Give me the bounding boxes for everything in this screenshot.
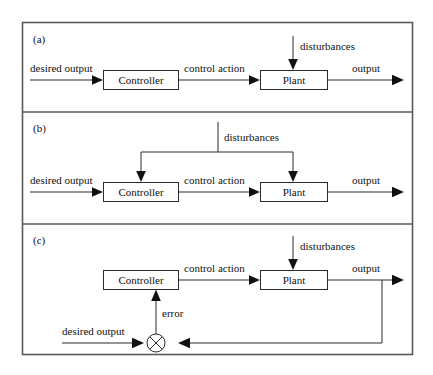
panel-c-label-desired-output: desired output: [62, 325, 125, 337]
panel-b-block-controller-label: Controller: [118, 186, 164, 198]
panel-b-arrow-disturbances-plant: [288, 171, 298, 182]
panel-b-arrow-disturbances-controller: [136, 171, 146, 182]
panel-c-label-control-action: control action: [184, 262, 245, 274]
panel-a-block-plant-label: Plant: [283, 74, 306, 86]
panel-c-arrow-output: [392, 275, 404, 285]
panel-c-block-controller-label: Controller: [118, 274, 164, 286]
panel-b-label-disturbances: disturbances: [224, 131, 279, 143]
panel-b: (b) desired output Controller control ac…: [30, 122, 404, 202]
panel-b-arrow-control-action: [249, 187, 260, 197]
panel-b-arrow-output: [392, 187, 404, 197]
panel-c-arrow-desired-output: [132, 338, 144, 348]
panel-a-arrow-desired-output: [92, 75, 103, 85]
panel-c-arrow-disturbances: [288, 259, 298, 270]
panel-c: (c) Controller control action disturbanc…: [33, 234, 404, 352]
panel-c-summing-junction: [147, 334, 165, 352]
panel-a-label-disturbances: disturbances: [300, 40, 355, 52]
panel-c-label-output: output: [352, 262, 380, 274]
panel-c-label-disturbances: disturbances: [300, 240, 355, 252]
panel-c-block-plant-label: Plant: [283, 274, 306, 286]
panel-b-label-output: output: [352, 174, 380, 186]
panel-b-label-desired-output: desired output: [30, 174, 93, 186]
panel-a: (a) desired output Controller control ac…: [30, 33, 404, 90]
panel-a-label-control-action: control action: [184, 62, 245, 74]
figure-canvas: (a) desired output Controller control ac…: [0, 0, 433, 375]
panel-a-tag: (a): [33, 33, 46, 46]
panel-a-block-controller-label: Controller: [118, 74, 164, 86]
panel-c-arrow-feedback: [178, 338, 190, 348]
panel-b-tag: (b): [33, 122, 46, 135]
panel-b-label-control-action: control action: [184, 174, 245, 186]
panel-a-arrow-output: [392, 75, 404, 85]
panel-a-label-desired-output: desired output: [30, 62, 93, 74]
panel-c-arrow-error: [151, 290, 161, 302]
panel-c-arrow-control-action: [249, 275, 260, 285]
panel-a-arrow-disturbances: [288, 59, 298, 70]
control-diagram-figure: (a) desired output Controller control ac…: [0, 0, 433, 375]
panel-a-label-output: output: [352, 62, 380, 74]
panel-a-arrow-control-action: [249, 75, 260, 85]
panel-c-label-error: error: [162, 307, 184, 319]
panel-b-block-plant-label: Plant: [283, 186, 306, 198]
panel-b-arrow-desired-output: [92, 187, 103, 197]
panel-c-tag: (c): [33, 234, 46, 247]
